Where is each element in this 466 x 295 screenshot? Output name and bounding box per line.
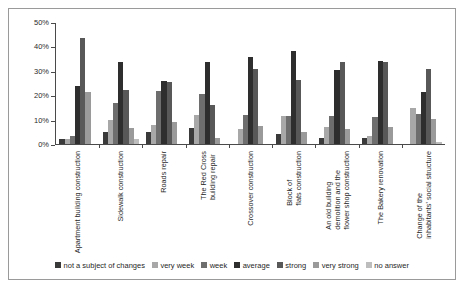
bar: [345, 129, 350, 144]
legend-label: average: [243, 262, 270, 270]
legend-label: week: [210, 262, 228, 270]
bar: [436, 142, 441, 144]
x-label-line: The Bakery renovation: [376, 151, 385, 224]
x-label-line: Sidewalk construction: [116, 151, 125, 222]
legend-label: very strong: [322, 262, 359, 270]
x-axis-category-label: Change of theinhabitants' social structu…: [415, 151, 433, 239]
bar-group: [56, 23, 99, 144]
legend-swatch-icon: [55, 262, 61, 268]
bar-group: [99, 23, 142, 144]
x-label-cell: The Red Crossbuilding repair: [186, 149, 229, 249]
bar: [258, 126, 263, 144]
x-label-cell: Sidewalk construction: [99, 149, 142, 249]
y-tick-label: 40%: [34, 44, 49, 52]
bar-group: [186, 23, 229, 144]
legend-item[interactable]: very week: [152, 262, 194, 270]
x-axis-category-label: Roads repair: [160, 151, 169, 193]
y-tick-label: 0%: [38, 141, 49, 149]
y-tick-label: 10%: [34, 117, 49, 125]
legend-item[interactable]: average: [234, 262, 270, 270]
x-label-line: flower shop construction: [342, 151, 351, 230]
x-label-line: Roads repair: [160, 151, 169, 193]
bar: [215, 138, 220, 144]
bar: [172, 122, 177, 144]
bar-group: [229, 23, 272, 144]
chart-legend: not a subject of changesvery weekweekave…: [9, 262, 455, 270]
legend-label: not a subject of changes: [64, 262, 145, 270]
x-label-cell: Roads repair: [143, 149, 186, 249]
chart-container: 0%10%20%30%40%50% Apartment building con…: [8, 8, 456, 280]
x-label-cell: Apartment building construction: [56, 149, 99, 249]
x-tick-mark: [315, 144, 316, 148]
y-tick-label: 20%: [34, 92, 49, 100]
x-label-line: The Red Cross: [199, 151, 208, 200]
x-tick-mark: [402, 144, 403, 148]
x-label-line: Change of the: [415, 151, 424, 239]
bar-group: [402, 23, 445, 144]
x-tick-mark: [142, 144, 143, 148]
bar-groups: [56, 23, 445, 144]
x-axis-category-label: Block offlats construction: [285, 151, 303, 206]
x-tick-mark: [272, 144, 273, 148]
x-label-line: building repair: [208, 151, 217, 200]
x-axis-category-label: The Bakery renovation: [376, 151, 385, 224]
legend-swatch-icon: [201, 262, 207, 268]
bar: [85, 92, 90, 144]
x-axis-category-label: The Red Crossbuilding repair: [199, 151, 217, 200]
legend-swatch-icon: [152, 262, 158, 268]
bar: [134, 139, 139, 144]
x-label-line: Apartment building construction: [73, 151, 82, 253]
bar-group: [142, 23, 185, 144]
x-axis-labels: Apartment building constructionSidewalk …: [56, 149, 446, 249]
y-tick-label: 50%: [34, 19, 49, 27]
y-tick-mark: [51, 72, 55, 73]
legend-label: no answer: [374, 262, 409, 270]
legend-label: strong: [285, 262, 306, 270]
legend-item[interactable]: no answer: [366, 262, 409, 270]
legend-item[interactable]: week: [201, 262, 227, 270]
bar-group: [359, 23, 402, 144]
y-tick-mark: [51, 47, 55, 48]
x-label-cell: Change of theinhabitants' social structu…: [403, 149, 446, 249]
x-tick-mark: [99, 144, 100, 148]
legend-item[interactable]: not a subject of changes: [55, 262, 145, 270]
y-tick-mark: [51, 145, 55, 146]
x-label-cell: Crossover construction: [229, 149, 272, 249]
y-tick-mark: [51, 121, 55, 122]
x-axis-category-label: Crossover construction: [246, 151, 255, 226]
legend-swatch-icon: [234, 262, 240, 268]
bar-group: [315, 23, 358, 144]
bar: [301, 132, 306, 144]
bar: [388, 127, 393, 144]
legend-swatch-icon: [277, 262, 283, 268]
bar: [431, 119, 436, 144]
x-label-cell: The Bakery renovation: [359, 149, 402, 249]
x-label-line: Crossover construction: [246, 151, 255, 226]
y-tick-label: 30%: [34, 68, 49, 76]
legend-item[interactable]: very strong: [313, 262, 359, 270]
bar-group: [272, 23, 315, 144]
x-label-cell: An old buildingdemolition and theflower …: [316, 149, 359, 249]
plot-area: 0%10%20%30%40%50%: [55, 23, 445, 145]
x-label-line: flats construction: [294, 151, 303, 206]
x-label-cell: Block offlats construction: [273, 149, 316, 249]
legend-swatch-icon: [313, 262, 319, 268]
y-tick-mark: [51, 23, 55, 24]
x-label-line: Block of: [285, 151, 294, 206]
x-tick-mark: [359, 144, 360, 148]
legend-label: very week: [160, 262, 194, 270]
x-label-line: inhabitants' social structure: [424, 151, 433, 239]
legend-swatch-icon: [366, 262, 372, 268]
x-label-line: An old building: [324, 151, 333, 230]
x-tick-mark: [229, 144, 230, 148]
x-axis-category-label: Sidewalk construction: [116, 151, 125, 222]
x-label-line: demolition and the: [333, 151, 342, 230]
x-axis-category-label: An old buildingdemolition and theflower …: [324, 151, 351, 230]
x-axis: [55, 144, 445, 145]
x-axis-category-label: Apartment building construction: [73, 151, 82, 253]
legend-item[interactable]: strong: [277, 262, 306, 270]
x-tick-mark: [186, 144, 187, 148]
y-tick-mark: [51, 96, 55, 97]
